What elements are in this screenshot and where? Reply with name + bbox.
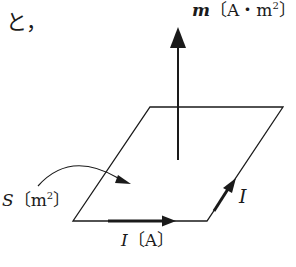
current-arrowhead-bottom-icon (162, 216, 176, 227)
moment-label: m〔A・m2〕 (192, 2, 296, 19)
current-unit: 〔A〕 (128, 230, 174, 250)
area-label: S〔m2〕 (2, 192, 70, 209)
intro-text: と， (6, 12, 47, 33)
moment-unit-prefix: 〔A・m (210, 0, 272, 20)
side-current-label: I (239, 187, 247, 206)
side-current-symbol: I (239, 185, 247, 207)
current-arrowhead-side-icon (223, 178, 236, 193)
moment-unit-suffix: 〕 (279, 0, 296, 20)
current-symbol: I (121, 230, 128, 250)
area-unit-prefix: 〔m (14, 190, 47, 210)
area-symbol: S (2, 190, 14, 210)
moment-unit-exp: 2 (272, 0, 278, 11)
area-unit-suffix: 〕 (53, 190, 70, 210)
current-label: I〔A〕 (121, 232, 174, 249)
area-unit-exp: 2 (47, 190, 53, 201)
area-pointer-curve (38, 166, 118, 186)
magnetic-moment-diagram (0, 0, 296, 267)
moment-arrowhead-icon (170, 27, 186, 48)
moment-symbol: m (192, 0, 210, 20)
current-arrow-side (214, 189, 228, 211)
area-pointer-arrowhead-icon (115, 175, 131, 184)
